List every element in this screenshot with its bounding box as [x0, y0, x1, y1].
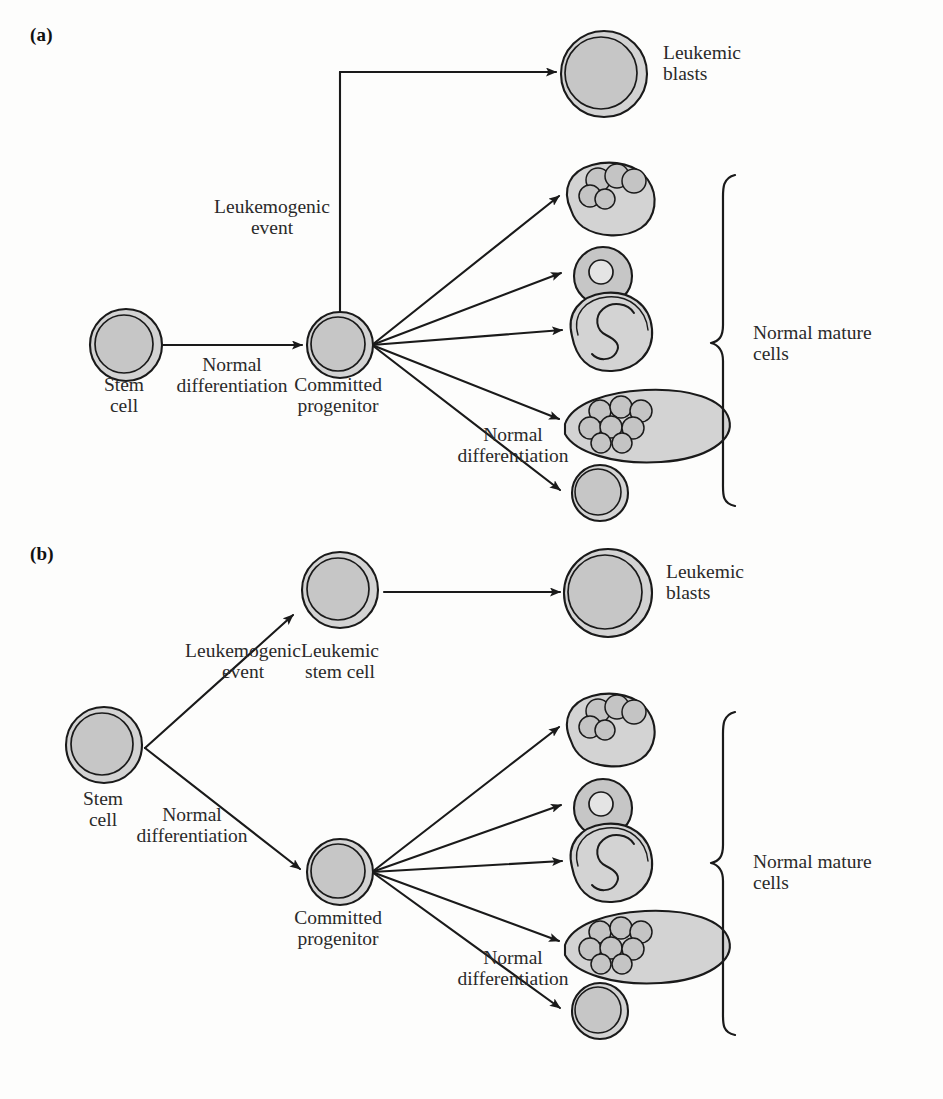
brace-normal-mature-cells-a [711, 175, 735, 506]
cell-leukemic-blast-b [564, 549, 652, 637]
label-leukemic-stem-cell-b: Leukemic stem cell [301, 640, 379, 683]
cell-monocyte-b [571, 824, 653, 902]
label-leukemogenic-event-a: Leukemogenic event [214, 196, 330, 239]
panel-letter-a: (a) [30, 24, 53, 46]
cell-leukemic-blast-a [561, 31, 647, 117]
cell-stem-a [90, 309, 162, 381]
cell-erythrocyte-a [572, 465, 628, 521]
panel-letter-b: (b) [30, 543, 54, 565]
diagram-canvas [0, 0, 943, 1099]
label-stem-cell-a: Stem cell [104, 374, 144, 417]
label-leukemic-blasts-a: Leukemic blasts [663, 42, 741, 85]
label-normal-differentiation-a2: Normal differentiation [457, 424, 568, 467]
label-normal-mature-cells-a: Normal mature cells [753, 322, 872, 365]
cell-committed-progenitor-b [307, 839, 373, 905]
cell-stem-b [66, 707, 142, 783]
label-normal-mature-cells-b: Normal mature cells [753, 851, 872, 894]
brace-normal-mature-cells-b [711, 712, 735, 1035]
label-leukemic-blasts-b: Leukemic blasts [666, 561, 744, 604]
label-committed-progenitor-b: Committed progenitor [294, 907, 382, 950]
cell-granulocyte-b [567, 694, 655, 767]
arrow-leukemogenic-event-a [340, 72, 556, 313]
label-normal-differentiation-a1: Normal differentiation [176, 354, 287, 397]
figure-root: (a) Leukemic blasts Leukemogenic event N… [0, 0, 943, 1099]
cell-granulocyte-a [567, 163, 655, 236]
cell-monocyte-a [571, 293, 653, 371]
label-leukemogenic-event-b: Leukemogenic event [185, 640, 301, 683]
cell-megakaryocyte-b [565, 911, 730, 984]
cell-leukemic-stem-b [302, 552, 378, 628]
label-normal-differentiation-b2: Normal differentiation [457, 947, 568, 990]
cell-erythrocyte-b [572, 983, 628, 1039]
label-normal-differentiation-b1: Normal differentiation [136, 804, 247, 847]
cell-megakaryocyte-a [565, 390, 730, 463]
label-stem-cell-b: Stem cell [83, 788, 123, 831]
label-committed-progenitor-a: Committed progenitor [294, 374, 382, 417]
cell-committed-progenitor-a [307, 312, 373, 378]
